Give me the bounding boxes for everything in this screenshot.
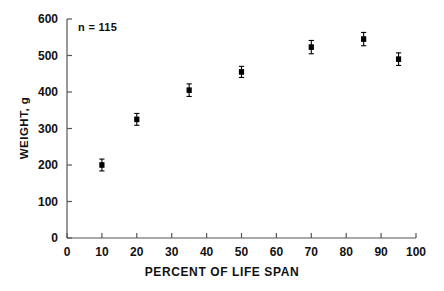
x-tick-label: 70	[305, 245, 318, 259]
x-tick-label: 0	[64, 245, 71, 259]
data-point	[134, 113, 139, 125]
y-tick-label: 300	[18, 122, 58, 136]
y-tick-label: 500	[18, 49, 58, 63]
data-point	[187, 84, 192, 97]
x-axis-title: PERCENT OF LIFE SPAN	[0, 265, 444, 279]
x-tick-label: 10	[95, 245, 108, 259]
x-tick-label: 40	[200, 245, 213, 259]
x-tick-label: 90	[374, 245, 387, 259]
sample-size-annotation: n = 115	[78, 21, 117, 33]
x-tick-label: 80	[340, 245, 353, 259]
y-tick-label: 0	[18, 231, 58, 245]
x-tick-label: 30	[165, 245, 178, 259]
y-tick-label: 400	[18, 85, 58, 99]
y-tick-label: 100	[18, 195, 58, 209]
data-point	[396, 53, 401, 66]
x-tick-label: 60	[270, 245, 283, 259]
x-tick-label: 50	[235, 245, 248, 259]
data-point	[309, 40, 314, 53]
data-point	[361, 32, 366, 45]
x-tick-label: 20	[130, 245, 143, 259]
x-tick-label: 100	[406, 245, 426, 259]
chart-figure: WEIGHT, g PERCENT OF LIFE SPAN n = 115 0…	[0, 0, 444, 291]
data-point	[239, 66, 244, 77]
data-point	[99, 159, 104, 171]
y-tick-label: 200	[18, 158, 58, 172]
y-tick-label: 600	[18, 12, 58, 26]
